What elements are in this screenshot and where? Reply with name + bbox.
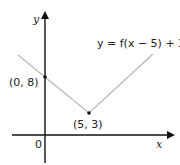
- curve-equation-label: y = f(x − 5) + 3: [97, 37, 180, 50]
- y-axis-label: y: [32, 13, 40, 26]
- point-label-vertex: (5, 3): [73, 118, 103, 131]
- point-vertex: [87, 111, 91, 115]
- point-label-y-intercept: (0, 8): [9, 76, 39, 89]
- origin-label: 0: [35, 138, 42, 151]
- graph: y x 0 (0, 8) (5, 3) y = f(x − 5) + 3: [0, 0, 180, 165]
- x-axis-label: x: [156, 138, 163, 151]
- point-y-intercept: [43, 75, 47, 79]
